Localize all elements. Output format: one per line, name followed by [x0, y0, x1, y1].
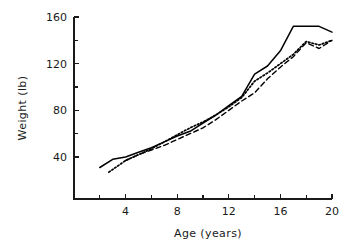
x-tick-label: 12 — [222, 205, 236, 218]
chart-canvas: 48121620 4080120160 Age (years) Weight (… — [0, 0, 358, 250]
y-tick-label: 160 — [46, 11, 67, 24]
x-axis-title: Age (years) — [174, 227, 242, 240]
y-axis-title: Weight (lb) — [16, 76, 29, 141]
x-tick-label: 20 — [325, 205, 339, 218]
x-tick-label: 8 — [174, 205, 181, 218]
x-tick-label: 4 — [122, 205, 129, 218]
y-tick-label: 80 — [53, 104, 67, 117]
y-tick-label: 40 — [53, 151, 67, 164]
growth-chart-figure: 48121620 4080120160 Age (years) Weight (… — [0, 0, 358, 250]
x-tick-label: 16 — [273, 205, 287, 218]
y-tick-label: 120 — [46, 58, 67, 71]
